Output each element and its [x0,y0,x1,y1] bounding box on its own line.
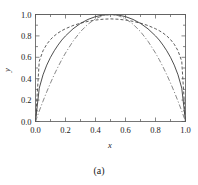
x-tick-label: 0.2 [60,125,71,135]
x-tick-label: 0.4 [90,125,101,135]
y-tick-label: 0.0 [21,117,32,127]
curve-outer-dashed [36,19,186,122]
x-tick-label: 0.8 [150,125,161,135]
y-tick-label: 0.4 [21,74,32,84]
x-tick-labels: 0.00.20.40.60.81.0 [30,125,191,135]
y-tick-label: 0.2 [21,95,32,105]
curve-middle-solid [36,15,186,122]
axis-ticks [36,15,186,122]
data-curves [36,15,186,122]
y-tick-label: 1.0 [21,10,32,20]
figure-panel: 0.00.20.40.60.81.0 0.00.20.40.60.81.0 x … [0,0,198,185]
x-tick-label: 0.0 [30,125,41,135]
y-tick-label: 0.8 [21,31,32,41]
x-tick-label: 1.0 [180,125,191,135]
curve-inner-dashdot [36,15,186,122]
y-tick-label: 0.6 [21,52,32,62]
x-axis-title: x [107,140,112,150]
chart-canvas: 0.00.20.40.60.81.0 0.00.20.40.60.81.0 x … [0,0,198,185]
figure-caption: (a) [93,165,104,177]
y-tick-labels: 0.00.20.40.60.81.0 [21,10,32,127]
x-tick-label: 0.6 [120,125,131,135]
y-axis-title: y [2,68,12,73]
plot-frame [36,15,186,122]
